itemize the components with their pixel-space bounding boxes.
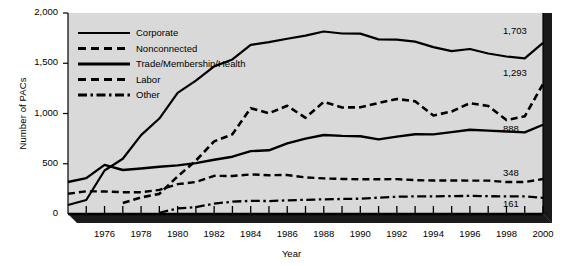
y-tick-label: 2,000 — [16, 6, 58, 17]
chart-canvas — [0, 0, 583, 266]
x-tick-label: 1998 — [486, 228, 526, 239]
x-axis-title: Year — [0, 248, 583, 259]
y-tick-label: 1,500 — [16, 56, 58, 67]
y-tick-label: 1,000 — [16, 107, 58, 118]
plot-shadow-bottom — [68, 214, 552, 223]
series-end-label-trade-membership-health: 888 — [503, 123, 519, 134]
plot-shadow-right-face — [543, 13, 552, 223]
x-tick-label: 1988 — [304, 228, 344, 239]
x-tick-label: 1976 — [85, 228, 125, 239]
x-tick-label: 1982 — [194, 228, 234, 239]
legend-label-corporate: Corporate — [136, 27, 178, 38]
x-tick-label: 1978 — [121, 228, 161, 239]
y-tick-label: 500 — [16, 157, 58, 168]
x-tick-label: 1996 — [450, 228, 490, 239]
x-tick-label: 1990 — [340, 228, 380, 239]
legend-label-nonconnected: Nonconnected — [136, 43, 197, 54]
series-end-label-other: 161 — [503, 198, 519, 209]
y-tick-label: 0 — [16, 207, 58, 218]
x-tick-label: 1992 — [377, 228, 417, 239]
x-tick-label: 1994 — [413, 228, 453, 239]
x-tick-label: 1986 — [267, 228, 307, 239]
series-end-label-labor: 348 — [503, 167, 519, 178]
legend-label-labor: Labor — [136, 74, 160, 85]
x-tick-label: 2000 — [523, 228, 563, 239]
x-tick-label: 1980 — [158, 228, 198, 239]
pac-growth-line-chart: Number of PACs Year 05001,0001,5002,000 … — [0, 0, 583, 266]
legend-label-other: Other — [136, 89, 160, 100]
series-end-label-nonconnected: 1,293 — [503, 67, 527, 78]
x-tick-label: 1984 — [231, 228, 271, 239]
legend-label-trade-membership-health: Trade/Membership/Health — [136, 58, 245, 69]
series-end-label-corporate: 1,703 — [503, 25, 527, 36]
